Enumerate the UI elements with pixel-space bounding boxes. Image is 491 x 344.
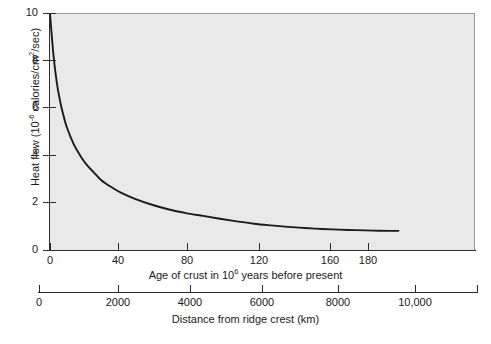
x-secondary-tick-label: 10,000 — [385, 297, 445, 308]
x-axis-line-primary — [49, 250, 476, 251]
x-axis-secondary-line — [38, 292, 478, 293]
y-axis-title-suffix-a: calories/cm — [29, 56, 41, 115]
x-secondary-tick-label: 0 — [9, 297, 69, 308]
y-axis-title-suffix-b: /sec) — [29, 28, 41, 52]
x-secondary-tick-label: 8000 — [308, 297, 368, 308]
x-primary-tick-label: 80 — [162, 255, 212, 266]
y-tick-label: 0 — [0, 244, 38, 255]
x-secondary-tick-label: 2000 — [88, 297, 148, 308]
x-primary-tick-mark — [259, 243, 260, 251]
y-tick-mark — [43, 155, 56, 156]
heat-flow-curve — [50, 14, 399, 231]
y-tick-mark — [43, 202, 56, 203]
x-secondary-tick-label: 6000 — [232, 297, 292, 308]
x-primary-tick-label: 40 — [93, 255, 143, 266]
x-secondary-tick-mark — [262, 285, 263, 293]
x-primary-tick-label: 0 — [25, 255, 75, 266]
y-axis-title-exponent: -6 — [27, 115, 36, 122]
x-secondary-tick-mark — [118, 285, 119, 293]
y-tick-mark — [43, 13, 56, 14]
heat-flow-curve-svg — [50, 14, 475, 251]
x-secondary-tick-label: 4000 — [160, 297, 220, 308]
x-primary-tick-mark — [50, 243, 51, 251]
y-tick-mark — [43, 60, 56, 61]
x-primary-tick-mark — [368, 243, 369, 251]
x-secondary-tick-mark — [338, 285, 339, 293]
x-axis-secondary-title: Distance from ridge crest (km) — [0, 313, 491, 325]
y-axis-title-prefix: Heat flow (10 — [29, 121, 41, 186]
x-primary-tick-mark — [330, 243, 331, 251]
x-axis-primary-title: Age of crust in 106 years before present — [0, 269, 491, 281]
x-primary-tick-label: 120 — [234, 255, 284, 266]
plot-area — [50, 13, 475, 250]
x-primary-tick-mark — [187, 243, 188, 251]
heat-flow-figure: 1086420 Heat flow (10-6 calories/cm2/sec… — [0, 0, 491, 344]
y-tick-mark — [43, 107, 56, 108]
x1-title-suffix: years before present — [238, 269, 342, 281]
x1-title-prefix: Age of crust in 10 — [149, 269, 235, 281]
y-axis-line — [49, 13, 50, 251]
x-secondary-end-tick — [477, 285, 478, 293]
y-axis-title-exponent-b: 2 — [27, 52, 36, 56]
x-secondary-tick-mark — [190, 285, 191, 293]
x-secondary-tick-mark — [415, 285, 416, 293]
x-primary-tick-label: 180 — [343, 255, 393, 266]
x-secondary-tick-mark — [39, 285, 40, 293]
x-primary-tick-mark — [118, 243, 119, 251]
y-axis-title: Heat flow (10-6 calories/cm2/sec) — [28, 0, 42, 227]
